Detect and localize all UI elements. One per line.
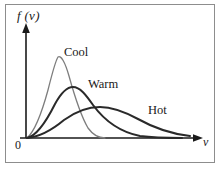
curve-label-hot: Hot — [148, 104, 167, 117]
curve-label-warm: Warm — [88, 78, 118, 91]
y-axis — [22, 23, 30, 138]
curve-cool — [27, 57, 105, 138]
x-axis-label: v — [203, 136, 208, 148]
curve-label-cool: Cool — [64, 46, 88, 59]
origin-label: 0 — [15, 139, 21, 151]
figure-container: f (v) v 0 Cool Warm Hot — [0, 0, 222, 169]
y-axis-label: f (v) — [17, 9, 40, 22]
